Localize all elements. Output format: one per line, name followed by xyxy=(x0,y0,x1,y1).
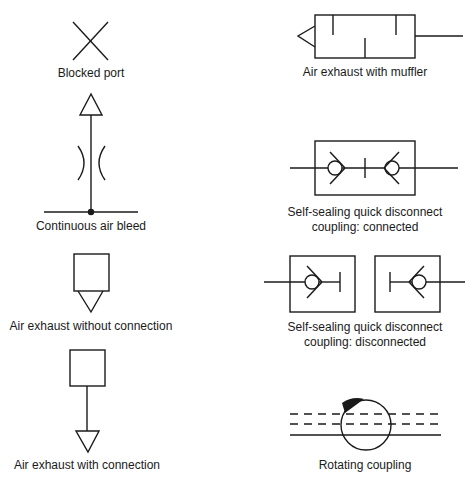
air-exhaust-with-connection-symbol xyxy=(70,350,105,452)
air-exhaust-with-muffler-label: Air exhaust with muffler xyxy=(290,65,440,80)
continuous-air-bleed-symbol xyxy=(44,94,138,215)
rotation-arrow-icon xyxy=(342,398,364,413)
continuous-air-bleed-label: Continuous air bleed xyxy=(20,219,162,234)
air-exhaust-without-connection-label: Air exhaust without connection xyxy=(0,319,182,334)
blocked-port-symbol xyxy=(73,22,108,60)
quick-disconnect-connected-label-line1: Self-sealing quick disconnect xyxy=(270,205,460,220)
rotating-coupling-label: Rotating coupling xyxy=(290,458,440,473)
quick-disconnect-connected-symbol xyxy=(290,141,458,195)
air-exhaust-without-connection-symbol xyxy=(74,254,109,312)
quick-disconnect-disconnected-symbol xyxy=(264,256,465,312)
quick-disconnect-disconnected-label-line1: Self-sealing quick disconnect xyxy=(270,320,460,335)
air-exhaust-with-muffler-symbol xyxy=(298,15,463,58)
blocked-port-label: Blocked port xyxy=(40,66,142,81)
quick-disconnect-connected-label-line2: coupling: connected xyxy=(270,220,460,235)
quick-disconnect-disconnected-label-line2: coupling: disconnected xyxy=(270,335,460,350)
air-exhaust-with-connection-label: Air exhaust with connection xyxy=(0,458,174,473)
rotating-coupling-symbol xyxy=(290,398,441,450)
